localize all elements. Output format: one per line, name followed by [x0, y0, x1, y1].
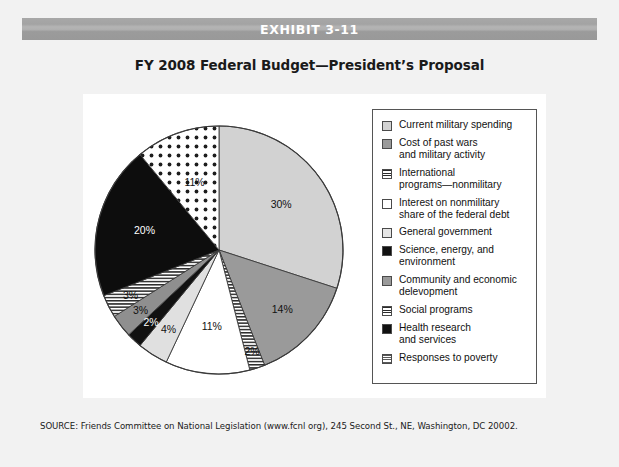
pie-slice-value-label: 20% — [134, 224, 155, 236]
chart-legend: Current military spendingCost of past wa… — [372, 109, 537, 384]
legend-swatch-mid-gray-solid-icon — [382, 276, 392, 286]
legend-swatch-black-solid-icon — [382, 324, 392, 334]
legend-item-label: Interest on nonmilitary share of the fed… — [399, 197, 509, 221]
pie-slice-value-label: 14% — [272, 303, 293, 315]
legend-item-label: Responses to poverty — [399, 352, 498, 364]
legend-item-label: Cost of past wars and military activity — [399, 137, 485, 161]
legend-swatch-black-solid-icon — [382, 246, 392, 256]
page-title: FY 2008 Federal Budget—President’s Propo… — [0, 57, 619, 73]
legend-item-label: Science, energy, and environment — [399, 244, 494, 268]
legend-item[interactable]: Cost of past wars and military activity — [382, 137, 530, 161]
legend-swatch-horizontal-lines-icon — [382, 169, 392, 179]
exhibit-header-bar: EXHIBIT 3-11 — [22, 18, 597, 40]
legend-item-label: Social programs — [399, 304, 473, 316]
legend-item[interactable]: International programs—nonmilitary — [382, 167, 530, 191]
pie-chart-svg: 30%14%2%11%4%2%3%3%20%11% — [93, 124, 345, 376]
legend-item-label: General government — [399, 226, 492, 238]
pie-slice-value-label: 4% — [161, 323, 176, 335]
legend-item-label: Community and economic delevopment — [399, 274, 517, 298]
legend-swatch-light-gray-solid-icon — [382, 121, 392, 131]
legend-swatch-pale-gray-solid-icon — [382, 228, 392, 238]
legend-item[interactable]: Health research and services — [382, 322, 530, 346]
pie-slice-value-label: 2% — [144, 316, 159, 328]
legend-swatch-horizontal-lines-icon — [382, 306, 392, 316]
legend-item[interactable]: Science, energy, and environment — [382, 244, 530, 268]
pie-slice-value-label: 11% — [184, 176, 204, 188]
source-note: SOURCE: Friends Committee on National Le… — [40, 421, 518, 431]
pie-slice-value-label: 2% — [244, 345, 259, 357]
chart-panel: 30%14%2%11%4%2%3%3%20%11% Current milita… — [83, 94, 546, 398]
legend-item[interactable]: Social programs — [382, 304, 530, 316]
pie-slice-value-label: 3% — [123, 289, 138, 301]
legend-item[interactable]: Interest on nonmilitary share of the fed… — [382, 197, 530, 221]
legend-item-label: Health research and services — [399, 322, 471, 346]
exhibit-number-label: EXHIBIT 3-11 — [260, 22, 359, 37]
legend-swatch-mid-gray-solid-icon — [382, 139, 392, 149]
legend-item-label: International programs—nonmilitary — [399, 167, 501, 191]
legend-item[interactable]: Community and economic delevopment — [382, 274, 530, 298]
legend-item-label: Current military spending — [399, 119, 512, 131]
pie-slice-value-label: 3% — [133, 304, 148, 316]
pie-chart: 30%14%2%11%4%2%3%3%20%11% — [93, 124, 345, 376]
pie-slice-value-label: 11% — [202, 320, 222, 332]
legend-item[interactable]: Current military spending — [382, 119, 530, 131]
legend-item[interactable]: General government — [382, 226, 530, 238]
pie-slice-group — [95, 126, 343, 374]
legend-swatch-dotted-icon — [382, 354, 392, 364]
legend-item[interactable]: Responses to poverty — [382, 352, 530, 364]
pie-slice-value-label: 30% — [271, 198, 292, 210]
legend-swatch-white-solid-icon — [382, 199, 392, 209]
